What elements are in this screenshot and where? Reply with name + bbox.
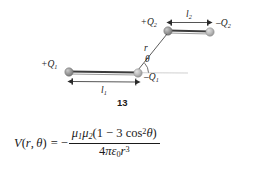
charge-sphere-minus-q1	[134, 69, 142, 77]
formula-expression: V(r, θ) = − μ1μ2(1 − 3 cos2θ) 4πε0r3	[14, 127, 160, 160]
lower-dipole-bar-shadow	[69, 74, 138, 75]
upper-dipole-bar	[168, 31, 210, 32]
label-plus-q2: +Q2	[141, 17, 157, 28]
label-theta: θ	[145, 54, 150, 64]
label-plus-q1: +Q1	[41, 59, 57, 70]
label-l2: l2	[186, 9, 192, 20]
potential-energy-formula: V(r, θ) = − μ1μ2(1 − 3 cos2θ) 4πε0r3	[0, 115, 267, 177]
charge-sphere-plus-q2	[164, 27, 172, 35]
upper-dipole-group: +Q2 –Q2 l2	[141, 9, 231, 36]
diagram-svg: +Q2 –Q2 l2 r θ	[0, 0, 267, 115]
label-minus-q2: –Q2	[215, 18, 231, 29]
label-r: r	[144, 43, 148, 53]
separation-vector-group: r	[136, 34, 167, 73]
formula-fraction: μ1μ2(1 − 3 cos2θ) 4πε0r3	[69, 127, 160, 160]
l1-measure-line	[73, 82, 135, 83]
formula-equals: =	[51, 136, 58, 151]
formula-minus-sign: −	[61, 136, 68, 151]
lower-dipole-bar	[69, 72, 138, 73]
figure-page: +Q2 –Q2 l2 r θ	[0, 0, 267, 177]
angle-theta-group: θ	[104, 54, 188, 73]
separation-line-r	[136, 34, 167, 73]
formula-denominator: 4πε0r3	[96, 144, 133, 160]
formula-numerator: μ1μ2(1 − 3 cos2θ)	[69, 127, 160, 144]
dipole-dipole-diagram: +Q2 –Q2 l2 r θ	[0, 0, 267, 115]
formula-lhs: V(r, θ)	[14, 136, 47, 151]
upper-dipole-bar-shadow	[168, 33, 210, 34]
label-l1: l1	[101, 85, 107, 96]
charge-sphere-plus-q1	[65, 68, 73, 76]
figure-number: 13	[117, 97, 128, 108]
label-minus-q1: –Q1	[143, 72, 159, 83]
charge-sphere-minus-q2	[206, 28, 214, 36]
lower-dipole-group: +Q1 –Q1 l1	[41, 59, 159, 96]
